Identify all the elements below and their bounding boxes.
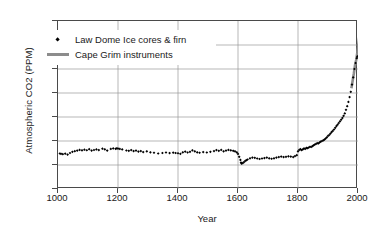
x-tick-label-1200: 1200 xyxy=(94,193,140,203)
x-tick-label-2000: 2000 xyxy=(334,193,374,203)
legend-label-law-dome: Law Dome Ice cores & firn xyxy=(75,34,186,45)
legend-item-cape-grim: Cape Grim instruments xyxy=(41,47,216,62)
x-tick-label-1000: 1000 xyxy=(34,193,80,203)
legend-label-cape-grim: Cape Grim instruments xyxy=(75,49,173,60)
co2-chart-figure: Atmospheric CO2 (PPM) Year 390 370 350 3… xyxy=(0,0,374,233)
diamond-marker-icon xyxy=(41,38,75,41)
cape-grim-line xyxy=(351,35,358,88)
law-dome-points xyxy=(58,55,358,165)
line-swatch-icon xyxy=(41,53,75,56)
x-axis-title: Year xyxy=(57,213,357,224)
legend-item-law-dome: Law Dome Ice cores & firn xyxy=(41,32,216,47)
x-tick-label-1600: 1600 xyxy=(214,193,260,203)
chart-legend: Law Dome Ice cores & firn Cape Grim inst… xyxy=(41,30,216,65)
y-axis-title: Atmospheric CO2 (PPM) xyxy=(23,11,34,191)
x-tick-label-1800: 1800 xyxy=(274,193,320,203)
x-tick-label-1400: 1400 xyxy=(154,193,200,203)
